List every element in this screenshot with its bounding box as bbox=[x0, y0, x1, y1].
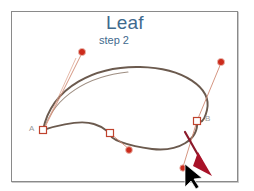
page-subtitle: step 2 bbox=[98, 35, 144, 47]
title-block: Leaf step 2 bbox=[98, 13, 144, 46]
anchor-label-a: A bbox=[29, 124, 34, 133]
anchor-label-b: B bbox=[205, 114, 210, 123]
page-title: Leaf bbox=[98, 13, 144, 33]
screenshot-root: Leaf step 2 A B bbox=[0, 0, 254, 191]
